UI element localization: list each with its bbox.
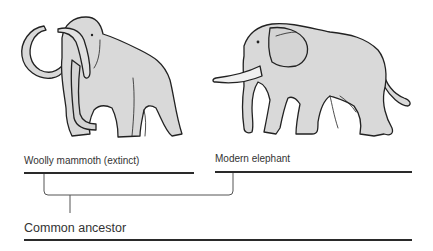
label-woolly-mammoth: Woolly mammoth (extinct) [24, 155, 139, 166]
label-modern-elephant: Modern elephant [215, 153, 290, 164]
woolly-mammoth-illustration [22, 17, 182, 137]
elephant-baseline [215, 171, 412, 173]
tree-connectors [44, 173, 233, 213]
diagram-illustration [0, 0, 433, 251]
label-common-ancestor: Common ancestor [24, 221, 126, 235]
ancestor-baseline [24, 239, 412, 241]
mammoth-baseline [24, 172, 194, 174]
modern-elephant-illustration [213, 24, 410, 136]
